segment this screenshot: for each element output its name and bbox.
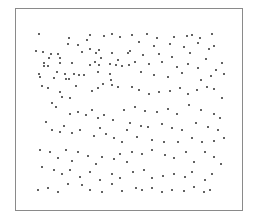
- data-point: [143, 169, 145, 171]
- data-point: [115, 64, 117, 66]
- data-point: [43, 62, 45, 64]
- data-point: [127, 52, 129, 54]
- data-point: [65, 149, 67, 151]
- data-point: [81, 51, 83, 53]
- data-point: [47, 187, 49, 189]
- plot-frame: [15, 8, 243, 211]
- data-point: [203, 191, 205, 193]
- data-point: [89, 48, 91, 50]
- data-point: [136, 136, 138, 138]
- data-point: [42, 51, 44, 53]
- data-point: [86, 39, 88, 41]
- data-point: [67, 183, 69, 185]
- data-point: [111, 84, 113, 86]
- data-point: [135, 187, 137, 189]
- data-point: [169, 90, 171, 92]
- data-point: [185, 151, 187, 153]
- data-point: [210, 75, 212, 77]
- data-point: [41, 85, 43, 87]
- data-point: [134, 106, 136, 108]
- data-point: [142, 54, 144, 56]
- data-point: [158, 91, 160, 93]
- data-point: [205, 58, 207, 60]
- data-point: [97, 117, 99, 119]
- data-point: [211, 173, 213, 175]
- data-point: [78, 74, 80, 76]
- data-point: [95, 163, 97, 165]
- data-point: [156, 111, 158, 113]
- data-point: [200, 79, 202, 81]
- data-point: [51, 129, 53, 131]
- data-point: [151, 139, 153, 141]
- data-point: [119, 177, 121, 179]
- data-point: [111, 183, 113, 185]
- data-point: [83, 74, 85, 76]
- data-point: [144, 110, 146, 112]
- data-point: [59, 62, 61, 64]
- data-point: [173, 36, 175, 38]
- data-point: [163, 141, 165, 143]
- data-point: [110, 79, 112, 81]
- data-point: [95, 52, 97, 54]
- data-point: [49, 151, 51, 153]
- data-point: [181, 72, 183, 74]
- data-point: [191, 171, 193, 173]
- data-point: [68, 37, 70, 39]
- data-point: [162, 175, 164, 177]
- data-point: [132, 171, 134, 173]
- data-point: [50, 53, 52, 55]
- data-point: [57, 191, 59, 193]
- data-point: [138, 41, 140, 43]
- data-point: [113, 158, 115, 160]
- data-point: [140, 71, 142, 73]
- data-point: [77, 44, 79, 46]
- data-point: [39, 76, 41, 78]
- data-point: [176, 66, 178, 68]
- data-point: [153, 45, 155, 47]
- data-point: [221, 62, 223, 64]
- data-point: [57, 157, 59, 159]
- data-point: [213, 140, 215, 142]
- data-point: [199, 37, 201, 39]
- data-point: [69, 97, 71, 99]
- data-point: [71, 132, 73, 134]
- data-point: [99, 179, 101, 181]
- data-point: [141, 153, 143, 155]
- data-point: [131, 151, 133, 153]
- data-point: [208, 48, 210, 50]
- data-point: [171, 127, 173, 129]
- data-point: [156, 37, 158, 39]
- data-point: [105, 133, 107, 135]
- data-point: [55, 106, 57, 108]
- data-point: [213, 45, 215, 47]
- data-point: [223, 73, 225, 75]
- data-point: [101, 191, 103, 193]
- data-point: [213, 156, 215, 158]
- data-point: [121, 190, 123, 192]
- data-point: [47, 87, 49, 89]
- data-point: [161, 123, 163, 125]
- data-point: [77, 111, 79, 113]
- data-point: [121, 141, 123, 143]
- data-point: [161, 61, 163, 63]
- data-point: [197, 42, 199, 44]
- data-point: [63, 125, 65, 127]
- data-point: [161, 191, 163, 193]
- data-point: [158, 53, 160, 55]
- data-point: [119, 153, 121, 155]
- data-point: [215, 69, 217, 71]
- data-point: [167, 76, 169, 78]
- data-point: [71, 62, 73, 64]
- data-point: [79, 176, 81, 178]
- data-point: [57, 53, 59, 55]
- data-point: [131, 34, 133, 36]
- data-point: [148, 63, 150, 65]
- data-point: [65, 78, 67, 80]
- data-point: [151, 177, 153, 179]
- data-point: [206, 86, 208, 88]
- data-point: [89, 171, 91, 173]
- data-point: [171, 56, 173, 58]
- data-point: [167, 108, 169, 110]
- data-point: [41, 166, 43, 168]
- data-point: [89, 34, 91, 36]
